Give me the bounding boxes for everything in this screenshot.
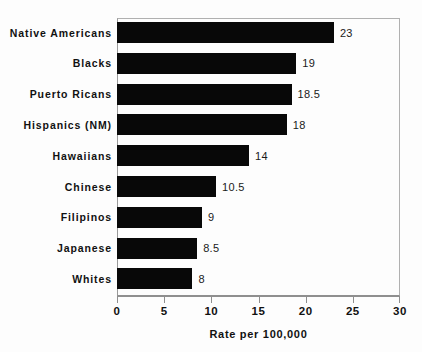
bar-value-label: 18.5 <box>298 88 321 100</box>
bar-value-label: 14 <box>255 150 268 162</box>
category-label: Puerto Ricans <box>30 88 112 100</box>
bar-value-label: 9 <box>208 211 214 223</box>
category-label: Whites <box>72 273 112 285</box>
bar-row: Filipinos9 <box>0 207 422 228</box>
bar <box>117 22 334 43</box>
bar <box>117 176 216 197</box>
x-tick-label: 15 <box>252 305 266 317</box>
bar <box>117 84 292 105</box>
bar-row: Native Americans23 <box>0 22 422 43</box>
bar <box>117 238 197 259</box>
x-tick-mark <box>399 296 400 303</box>
category-label: Japanese <box>57 242 112 254</box>
bar-rows: Native Americans23Blacks19Puerto Ricans1… <box>0 18 422 296</box>
bar-value-label: 8 <box>198 273 204 285</box>
x-tick-mark <box>117 296 118 303</box>
bar-row: Japanese8.5 <box>0 238 422 259</box>
x-tick-label: 25 <box>346 305 360 317</box>
x-tick-mark <box>306 296 307 303</box>
bar-row: Whites8 <box>0 268 422 289</box>
category-label: Hawaiians <box>53 150 112 162</box>
x-tick-mark <box>211 296 212 303</box>
x-tick-label: 5 <box>161 305 168 317</box>
category-label: Chinese <box>65 181 112 193</box>
category-label: Hispanics (NM) <box>24 119 112 131</box>
x-tick-mark <box>164 296 165 303</box>
category-label: Blacks <box>73 57 112 69</box>
bar-row: Hispanics (NM)18 <box>0 114 422 135</box>
bar <box>117 207 202 228</box>
bar <box>117 268 192 289</box>
x-tick-label: 10 <box>204 305 218 317</box>
x-tick-mark <box>259 296 260 303</box>
bar-row: Chinese10.5 <box>0 176 422 197</box>
bar-value-label: 10.5 <box>222 181 245 193</box>
bar-value-label: 23 <box>340 27 353 39</box>
bar-row: Puerto Ricans18.5 <box>0 84 422 105</box>
bar <box>117 114 287 135</box>
bar <box>117 145 249 166</box>
bar-value-label: 8.5 <box>203 242 219 254</box>
x-tick-label: 30 <box>393 305 407 317</box>
bar-value-label: 19 <box>302 57 315 69</box>
x-tick-mark <box>353 296 354 303</box>
bar <box>117 53 296 74</box>
bar-chart: Native Americans23Blacks19Puerto Ricans1… <box>0 0 422 352</box>
category-label: Native Americans <box>10 27 112 39</box>
category-label: Filipinos <box>61 211 112 223</box>
x-tick-label: 0 <box>114 305 121 317</box>
bar-row: Blacks19 <box>0 53 422 74</box>
bar-row: Hawaiians14 <box>0 145 422 166</box>
x-axis-title: Rate per 100,000 <box>117 328 400 340</box>
bar-value-label: 18 <box>293 119 306 131</box>
x-tick-label: 20 <box>299 305 313 317</box>
